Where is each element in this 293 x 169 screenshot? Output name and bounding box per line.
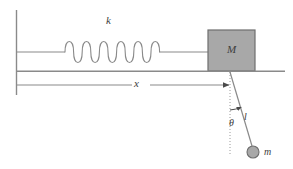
physics-diagram: k M x θ l m [0, 0, 293, 169]
pendulum-rod [230, 72, 252, 146]
displacement-label: x [134, 78, 139, 89]
angle-arc [230, 107, 241, 110]
pendulum-bob-mass-m [247, 146, 259, 158]
diagram-canvas [0, 0, 293, 169]
spring-coils [65, 42, 160, 63]
block-mass-label: M [227, 44, 236, 55]
bob-mass-label: m [264, 147, 271, 157]
spring-constant-label: k [106, 15, 111, 26]
angle-label: θ [229, 118, 234, 128]
pendulum-length-label: l [244, 112, 247, 122]
